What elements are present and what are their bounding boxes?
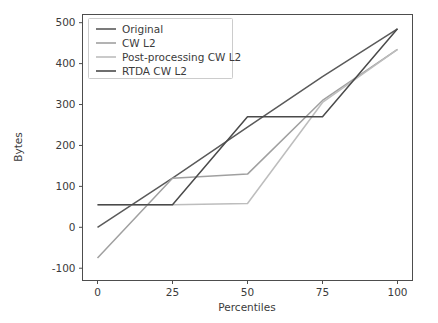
legend-label-2: CW L2	[122, 37, 156, 49]
legend-label-1: Original	[122, 23, 163, 35]
y-axis-label: Bytes	[12, 132, 24, 161]
x-axis-label: Percentiles	[218, 301, 275, 313]
x-tick-label: 100	[387, 286, 407, 298]
y-tick-label: 300	[55, 98, 75, 110]
y-tick-label: 500	[55, 16, 75, 28]
x-tick-label: 50	[241, 286, 254, 298]
legend-label-4: RTDA CW L2	[122, 65, 187, 77]
x-tick-label: 75	[316, 286, 329, 298]
line-chart: 0255075100 -1000100200300400500 Original…	[0, 0, 438, 323]
y-tick-label: 0	[69, 221, 76, 233]
x-axis-ticks: 0255075100	[94, 281, 407, 298]
y-tick-label: 100	[55, 180, 75, 192]
x-tick-label: 0	[94, 286, 101, 298]
chart-legend: OriginalCW L2Post-processing CW L2RTDA C…	[89, 19, 242, 79]
legend-label-3: Post-processing CW L2	[122, 51, 241, 63]
chart-figure: 0255075100 -1000100200300400500 Original…	[0, 0, 438, 323]
x-tick-label: 25	[166, 286, 179, 298]
y-tick-label: 200	[55, 139, 75, 151]
y-tick-label: 400	[55, 57, 75, 69]
y-axis-ticks: -1000100200300400500	[52, 16, 83, 274]
y-tick-label: -100	[52, 262, 76, 274]
